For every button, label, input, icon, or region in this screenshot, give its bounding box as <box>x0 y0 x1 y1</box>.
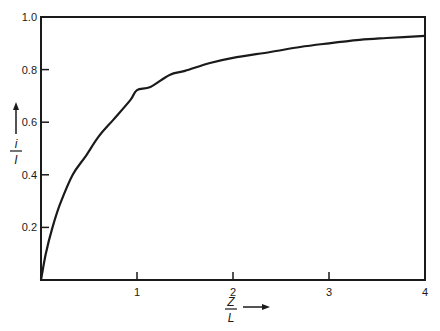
data-curve <box>41 36 425 280</box>
x-axis-ticks: 1234 <box>134 272 428 298</box>
plot-frame <box>41 17 425 280</box>
y-tick-label: 0.6 <box>22 116 37 128</box>
y-tick-label: 0.4 <box>22 169 37 181</box>
x-label-denominator: L <box>228 311 235 325</box>
y-tick-label: 1.0 <box>22 11 37 23</box>
y-arrow-head-icon <box>13 102 19 110</box>
x-label-numerator: Z <box>226 295 235 309</box>
y-axis-ticks: 0.20.40.60.81.0 <box>22 11 49 233</box>
x-tick-label: 1 <box>134 286 140 298</box>
x-axis-label: Z L <box>225 295 270 325</box>
x-arrow-head-icon <box>262 304 270 310</box>
y-label-numerator: i <box>15 137 18 151</box>
chart: 0.20.40.60.81.0 1234 i I Z L <box>0 0 440 331</box>
x-tick-label: 3 <box>326 286 332 298</box>
y-axis-label: i I <box>10 102 22 167</box>
y-tick-label: 0.8 <box>22 64 37 76</box>
x-tick-label: 4 <box>422 286 428 298</box>
y-label-denominator: I <box>14 153 18 167</box>
y-tick-label: 0.2 <box>22 221 37 233</box>
